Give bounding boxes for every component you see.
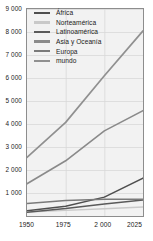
legend-swatch-icon: [34, 50, 50, 52]
legend-item-label: Europa: [56, 47, 78, 56]
legend-swatch-icon: [34, 31, 50, 33]
legend-item: Asia y Oceanía: [34, 37, 101, 47]
y-axis-tick-label: 6 000: [0, 74, 22, 81]
y-axis-tick-label: 1 000: [0, 189, 22, 196]
y-axis-tick-label: 4 000: [0, 120, 22, 127]
legend-item: Latinoamérica: [34, 27, 101, 37]
legend-item: Europa: [34, 46, 101, 56]
x-axis-tick-label: 1975: [56, 221, 71, 229]
x-axis-tick-label: 2025: [127, 221, 142, 229]
y-axis-tick-label: 7 000: [0, 51, 22, 58]
y-axis-tick-label: 9 000: [0, 5, 22, 12]
population-line-chart: 1 0002 0003 0004 0005 0006 0007 0008 000…: [0, 0, 153, 241]
chart-legend: ÁfricaNorteaméricaLatinoaméricaAsia y Oc…: [34, 8, 101, 66]
legend-item: mundo: [34, 56, 101, 66]
y-axis-tick-label: 3 000: [0, 143, 22, 150]
legend-swatch-icon: [34, 21, 50, 23]
legend-swatch-icon: [34, 40, 50, 42]
legend-item-label: mundo: [56, 56, 76, 65]
x-axis-tick-label: 2 000: [94, 221, 111, 229]
legend-swatch-icon: [34, 12, 50, 14]
legend-item: Norteamérica: [34, 18, 101, 28]
y-axis-tick-label: 5 000: [0, 97, 22, 104]
legend-item-label: Latinoamérica: [56, 27, 98, 36]
legend-swatch-icon: [34, 60, 50, 62]
y-axis-tick-label: 8 000: [0, 28, 22, 35]
legend-item-label: África: [56, 8, 73, 17]
legend-item-label: Norteamérica: [56, 18, 96, 27]
legend-item: África: [34, 8, 101, 18]
y-axis-tick-label: 2 000: [0, 166, 22, 173]
legend-item-label: Asia y Oceanía: [56, 37, 101, 46]
x-axis-tick-label: 1950: [19, 221, 34, 229]
